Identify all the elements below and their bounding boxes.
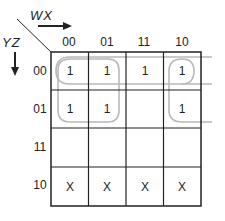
cell-00-00: 1 [67, 64, 74, 78]
cell-10-11: X [141, 180, 149, 194]
cell-10-01: X [103, 180, 111, 194]
col-variable-label: WX [30, 8, 53, 23]
row-label-00: 00 [33, 64, 47, 78]
col-label-01: 01 [100, 35, 114, 49]
col-label-00: 00 [62, 35, 76, 49]
col-label-10: 10 [175, 35, 189, 49]
cell-00-10: 1 [179, 64, 186, 78]
corner-diagonal [17, 19, 51, 52]
cell-00-11: 1 [142, 64, 149, 78]
cell-10-10: X [178, 180, 186, 194]
right-arrow-icon [38, 22, 72, 30]
down-arrow-icon [11, 52, 19, 76]
row-label-11: 11 [34, 140, 47, 154]
cell-01-10: 1 [179, 102, 186, 116]
col-label-11: 11 [138, 35, 151, 49]
row-variable-label: YZ [2, 35, 21, 50]
row-label-01: 01 [33, 102, 47, 116]
karnaugh-map: WX YZ 00 01 11 10 00 01 11 10 1 1 1 1 1 [0, 0, 225, 221]
row-label-10: 10 [33, 178, 47, 192]
cell-00-01: 1 [104, 64, 111, 78]
cell-10-00: X [66, 180, 74, 194]
cell-01-01: 1 [104, 102, 111, 116]
cell-01-00: 1 [67, 102, 74, 116]
